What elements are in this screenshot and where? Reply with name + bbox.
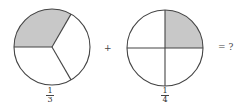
fraction-diagram	[0, 0, 252, 106]
numerator: 1	[159, 87, 171, 95]
circle-thirds	[14, 9, 90, 85]
fraction-label-one-fourth: 1 4	[159, 87, 171, 104]
fraction-label-one-third: 1 3	[44, 87, 56, 104]
denominator: 4	[159, 96, 171, 104]
numerator: 1	[44, 87, 56, 95]
equals-question: = ?	[218, 42, 233, 52]
circle-quarters	[127, 10, 203, 86]
denominator: 3	[44, 96, 56, 104]
plus-operator: +	[104, 43, 112, 53]
